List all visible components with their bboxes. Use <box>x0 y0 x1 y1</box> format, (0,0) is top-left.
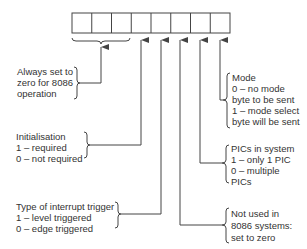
brace-initialisation <box>84 132 90 158</box>
label-line: PICs in system <box>231 143 294 154</box>
label-pics-in-system: PICs in system 1 – only 1 PIC 0 – multip… <box>231 143 294 187</box>
label-initialisation: Initialisation 1 – required 0 – not requ… <box>16 131 83 164</box>
label-line: 0 – multiple <box>231 165 294 176</box>
label-line: Mode <box>232 72 300 83</box>
label-line: zero for 8086 <box>17 77 73 88</box>
label-line: 1 – mode select <box>232 105 300 116</box>
label-line: set to zero <box>231 232 292 244</box>
brace-pics <box>222 145 229 183</box>
label-line: Initialisation <box>16 131 83 142</box>
label-line: 1 – only 1 PIC <box>231 154 294 165</box>
label-line: Always set to <box>17 66 73 77</box>
brace-trigger <box>115 202 121 228</box>
label-line: PICs <box>231 176 294 187</box>
label-line: 1 – level triggered <box>16 212 114 223</box>
label-trigger-type: Type of interrupt trigger 1 – level trig… <box>16 201 114 234</box>
label-mode: Mode 0 – no mode byte to be sent 1 – mod… <box>232 72 300 127</box>
label-line: 8086 systems: <box>231 220 292 232</box>
label-line: 1 – required <box>16 142 83 153</box>
brace-bits-7-5 <box>72 38 130 44</box>
brace-not-used <box>222 208 229 243</box>
label-line: 0 – not required <box>16 153 83 164</box>
label-line: operation <box>17 88 73 99</box>
label-line: byte to be sent <box>232 94 300 105</box>
label-always-zero: Always set to zero for 8086 operation <box>17 66 73 99</box>
register-cells <box>72 13 230 33</box>
brace-mode <box>223 73 230 128</box>
label-line: byte will be sent <box>232 116 300 127</box>
label-not-used: Not used in 8086 systems: set to zero <box>231 208 292 244</box>
label-line: 0 – edge triggered <box>16 223 114 234</box>
label-line: Type of interrupt trigger <box>16 201 114 212</box>
brace-always-zero <box>74 67 80 99</box>
label-line: Not used in <box>231 208 292 220</box>
label-line: 0 – no mode <box>232 83 300 94</box>
